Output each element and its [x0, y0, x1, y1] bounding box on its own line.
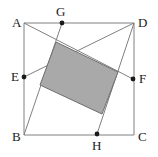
point-label-d: D	[138, 16, 147, 29]
shaded-parallelogram	[40, 42, 118, 114]
point-label-e: E	[11, 70, 19, 83]
point-label-g: G	[56, 5, 65, 18]
point-marker-h	[95, 132, 100, 137]
point-marker-g	[60, 21, 65, 26]
point-label-f: F	[139, 72, 146, 85]
point-label-h: H	[92, 139, 101, 152]
point-marker-e	[22, 75, 27, 80]
figure-canvas	[0, 0, 158, 157]
point-marker-f	[131, 77, 136, 82]
point-label-b: B	[12, 130, 21, 143]
point-label-c: C	[138, 130, 147, 143]
point-label-a: A	[12, 16, 21, 29]
geometry-figure: ADCBGFHE	[0, 0, 158, 157]
